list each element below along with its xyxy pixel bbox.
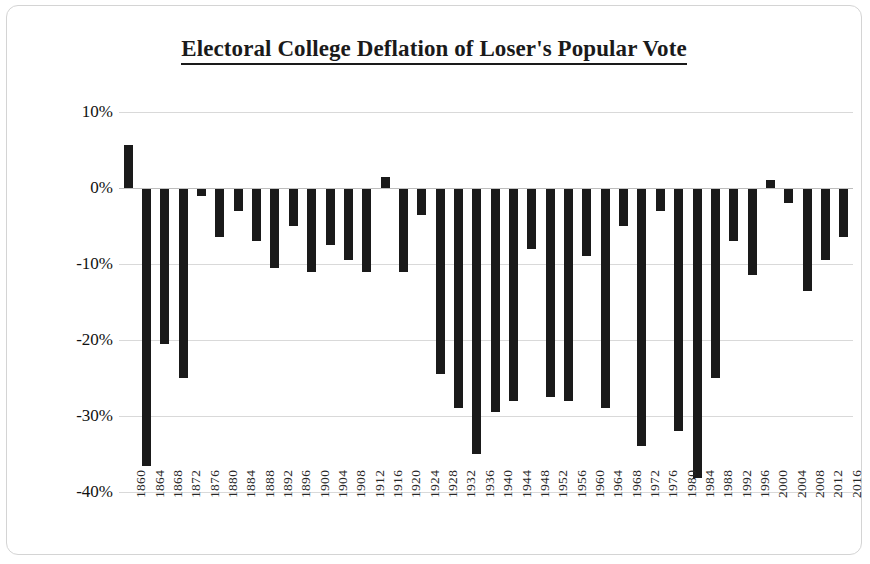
gridline [119,416,853,417]
x-axis-tick-labels: 1860186418681872187618801884188818921896… [119,498,853,560]
y-axis-tick-label: -30% [39,406,113,426]
x-axis-tick-label: 1872 [188,470,204,498]
gridline [119,264,853,265]
x-axis-tick-label: 1956 [574,470,590,498]
bar [197,188,206,196]
x-axis-tick-label: 1960 [592,470,608,498]
x-axis-tick-label: 1952 [555,470,571,498]
x-axis-tick-label: 2012 [830,470,846,498]
bar [307,188,316,272]
x-axis-tick-label: 1976 [665,470,681,498]
x-axis-tick-label: 1996 [757,470,773,498]
bar [656,188,665,211]
x-axis-tick-label: 1900 [317,470,333,498]
bar [252,188,261,241]
bar [399,188,408,272]
x-axis-tick-label: 1892 [280,470,296,498]
x-axis-tick-label: 1972 [647,470,663,498]
x-axis-tick-label: 1908 [353,470,369,498]
x-axis-tick-label: 2016 [849,470,865,498]
x-axis-tick-label: 1884 [243,470,259,498]
bar [546,188,555,397]
bar [619,188,628,226]
bar [362,188,371,272]
bar [270,188,279,268]
bar [766,180,775,188]
x-axis-tick-label: 1992 [739,470,755,498]
bar [711,188,720,378]
x-axis-tick-label: 2004 [794,470,810,498]
bar [234,188,243,211]
x-axis-tick-label: 1964 [610,470,626,498]
x-axis-tick-label: 1928 [445,470,461,498]
y-axis-tick-label: 0% [39,178,113,198]
y-axis-tick-labels: 10%0%-10%-20%-30%-40% [29,112,113,492]
x-axis-tick-label: 1944 [519,470,535,498]
bar [527,188,536,249]
gridline [119,340,853,341]
x-axis-tick-label: 1904 [335,470,351,498]
bar [748,188,757,275]
x-axis-tick-label: 1896 [298,470,314,498]
bar [674,188,683,431]
plot-area [119,112,853,492]
bar [215,188,224,237]
x-axis-tick-label: 1984 [702,470,718,498]
x-axis-tick-label: 1988 [720,470,736,498]
x-axis-tick-label: 1916 [390,470,406,498]
bar [326,188,335,245]
bar [582,188,591,256]
gridline [119,112,853,113]
x-axis-tick-label: 1980 [684,470,700,498]
y-axis-tick-label: -40% [39,482,113,502]
bar [564,188,573,401]
x-axis-tick-label: 1968 [629,470,645,498]
bar [491,188,500,412]
bar [784,188,793,203]
x-axis-tick-label: 2008 [812,470,828,498]
x-axis-tick-label: 1948 [537,470,553,498]
bar [124,145,133,188]
bar [803,188,812,291]
y-axis-tick-label: 10% [39,102,113,122]
x-axis-tick-label: 1936 [482,470,498,498]
bar [436,188,445,374]
zero-baseline [119,188,853,189]
x-axis-tick-label: 1912 [372,470,388,498]
x-axis-tick-label: 1864 [152,470,168,498]
y-axis-tick-label: -20% [39,330,113,350]
bar [179,188,188,378]
x-axis-tick-label: 1876 [207,470,223,498]
bar [160,188,169,344]
bar [601,188,610,408]
bar [729,188,738,241]
bar [472,188,481,454]
bar [289,188,298,226]
bar [693,188,702,478]
y-axis-tick-label: -10% [39,254,113,274]
bar [344,188,353,260]
x-axis-tick-label: 1940 [500,470,516,498]
chart-frame: Electoral College Deflation of Loser's P… [6,5,862,555]
bar [839,188,848,237]
bar [637,188,646,446]
bar [821,188,830,260]
x-axis-tick-label: 1932 [463,470,479,498]
x-axis-tick-label: 2000 [775,470,791,498]
x-axis-tick-label: 1860 [133,470,149,498]
chart-title: Electoral College Deflation of Loser's P… [7,36,861,62]
bar [417,188,426,215]
bar [142,188,151,466]
x-axis-tick-label: 1880 [225,470,241,498]
bar [381,177,390,188]
x-axis-tick-label: 1888 [262,470,278,498]
x-axis-tick-label: 1920 [408,470,424,498]
chart-title-text: Electoral College Deflation of Loser's P… [181,36,687,65]
bar [454,188,463,408]
bar [509,188,518,401]
x-axis-tick-label: 1868 [170,470,186,498]
x-axis-tick-label: 1924 [427,470,443,498]
